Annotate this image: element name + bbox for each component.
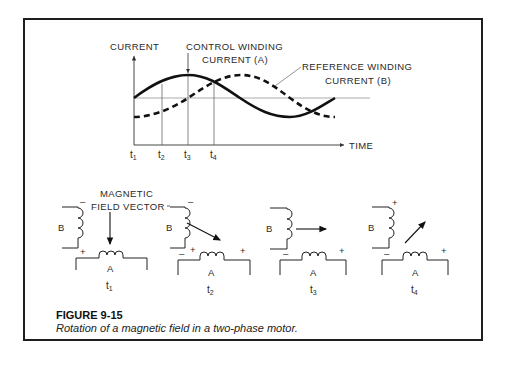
time-label-t1: t1 [130, 149, 137, 161]
field-vector-arrow-down-right [187, 223, 220, 240]
coil-b-minus: – [188, 196, 194, 207]
coil-a-plus: + [240, 245, 246, 256]
figure-number: FIGURE 9-15 [56, 309, 123, 321]
winding-panel-t4: B A + – + t4 [368, 197, 448, 296]
coil-a-label: A [412, 267, 419, 278]
coil-b-minus: – [80, 196, 86, 207]
x-axis-label: TIME [349, 140, 373, 151]
field-vector-label: FIELD VECTOR [91, 201, 165, 212]
y-axis-label: CURRENT [110, 41, 159, 52]
panel-time-label: t4 [411, 284, 418, 296]
coil-b [62, 207, 83, 248]
time-label-t4: t4 [210, 149, 217, 161]
reference-winding-label-1: REFERENCE WINDING [302, 61, 412, 72]
coil-b [270, 208, 292, 249]
current-graph: CURRENT TIME CONTROL WINDING CURRENT (A)… [110, 41, 412, 161]
coil-b-plus: + [80, 246, 86, 257]
coil-b-label: B [266, 223, 273, 234]
panel-time-label: t1 [106, 280, 113, 292]
coil-b-label: B [166, 222, 173, 233]
coil-a-label: A [310, 267, 317, 278]
coil-a-plus: + [339, 245, 345, 256]
coil-a-label: A [107, 263, 114, 274]
time-label-t2: t2 [158, 149, 165, 161]
coil-b [170, 207, 190, 248]
coil-b-label: B [58, 222, 65, 233]
coil-a-label: A [208, 267, 215, 278]
field-vector-arrow-up-right [405, 222, 425, 243]
coil-a-minus: – [384, 248, 390, 259]
coil-b-plus: + [190, 244, 196, 255]
panel-time-label: t3 [310, 284, 317, 296]
figure-caption: Rotation of a magnetic field in a two-ph… [56, 322, 298, 334]
control-winding-label-2: CURRENT (A) [202, 54, 268, 65]
coil-a-plus: + [441, 245, 447, 256]
panel-time-label: t2 [207, 284, 214, 296]
coil-b [372, 207, 394, 248]
coil-b-label: B [368, 222, 375, 233]
magnetic-label: MAGNETIC [100, 188, 153, 199]
coil-b-plus: + [392, 197, 398, 208]
coil-a-minus: – [179, 248, 185, 259]
time-label-t3: t3 [184, 149, 191, 161]
winding-panel-t2: B A – + – + t2 [166, 196, 250, 296]
reference-winding-label-2: CURRENT (B) [325, 75, 391, 86]
winding-panel-t3: B A – + t3 [266, 208, 346, 296]
control-winding-label-1: CONTROL WINDING [186, 41, 283, 52]
coil-a-minus: – [283, 248, 289, 259]
reference-winding-pointer [275, 67, 301, 86]
